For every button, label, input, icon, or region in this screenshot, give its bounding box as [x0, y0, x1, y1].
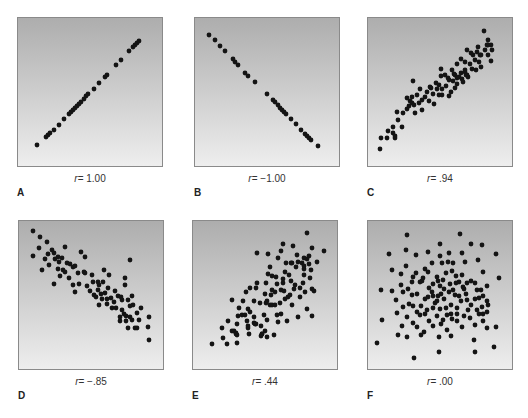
data-point: [92, 87, 97, 92]
correlation-label: r= −1.00: [194, 173, 340, 184]
data-point: [97, 283, 102, 288]
data-point: [401, 111, 406, 116]
data-point: [63, 245, 68, 250]
data-point: [476, 45, 481, 50]
data-point: [391, 125, 396, 130]
data-point: [276, 320, 281, 325]
data-point: [393, 136, 398, 141]
data-point: [405, 96, 410, 101]
data-point: [46, 252, 51, 257]
data-point: [113, 289, 118, 294]
data-point: [275, 282, 280, 287]
correlation-label: r= −.85: [18, 376, 164, 387]
data-point: [265, 335, 270, 340]
data-point: [460, 325, 465, 330]
scatter-panel-e: [192, 220, 338, 370]
data-point: [52, 251, 57, 256]
data-point: [473, 281, 478, 286]
data-point: [438, 307, 443, 312]
data-point: [269, 293, 274, 298]
data-point: [401, 290, 406, 295]
data-point: [241, 299, 246, 304]
data-point: [438, 254, 443, 259]
data-point: [302, 264, 307, 269]
data-point: [43, 257, 48, 262]
data-point: [419, 304, 424, 309]
data-point: [268, 265, 273, 270]
data-point: [295, 253, 300, 258]
data-point: [462, 287, 467, 292]
data-point: [298, 295, 303, 300]
data-point: [497, 276, 502, 281]
data-point: [412, 356, 417, 361]
data-point: [490, 48, 495, 53]
data-point: [258, 301, 263, 306]
data-point: [298, 286, 303, 291]
data-point: [266, 272, 271, 277]
data-point: [137, 318, 142, 323]
data-point: [114, 306, 119, 311]
data-point: [281, 242, 286, 247]
panel-letter-d: D: [18, 390, 25, 401]
data-point: [226, 319, 231, 324]
scatter-plot-area: [192, 220, 338, 370]
data-point: [415, 93, 420, 98]
data-point: [60, 256, 65, 261]
correlation-label: r= .44: [192, 376, 338, 387]
data-point: [405, 335, 410, 340]
data-point: [405, 315, 410, 320]
data-point: [284, 112, 289, 117]
data-point: [247, 332, 252, 337]
data-point: [452, 72, 457, 77]
data-point: [400, 324, 405, 329]
data-point: [427, 99, 432, 104]
data-point: [399, 283, 404, 288]
data-point: [437, 335, 442, 340]
data-point: [255, 281, 260, 286]
data-point: [426, 270, 431, 275]
data-point: [85, 284, 90, 289]
data-point: [77, 282, 82, 287]
data-point: [440, 87, 445, 92]
data-point: [56, 255, 61, 260]
data-point: [390, 289, 395, 294]
data-point: [40, 268, 45, 273]
r-value: = .00: [430, 376, 453, 387]
data-point: [97, 303, 102, 308]
data-point: [430, 261, 435, 266]
data-point: [302, 256, 307, 261]
data-point: [301, 281, 306, 286]
data-point: [448, 282, 453, 287]
data-point: [139, 306, 144, 311]
data-point: [481, 319, 486, 324]
data-point: [435, 299, 440, 304]
data-point: [246, 324, 251, 329]
data-point: [455, 76, 460, 81]
data-point: [243, 313, 248, 318]
data-point: [451, 288, 456, 293]
data-point: [272, 333, 277, 338]
panel-letter-c: C: [367, 187, 374, 198]
data-point: [481, 312, 486, 317]
data-point: [109, 296, 114, 301]
data-point: [252, 315, 257, 320]
data-point: [307, 254, 312, 259]
data-point: [404, 248, 409, 253]
data-point: [287, 273, 292, 278]
data-point: [45, 240, 50, 245]
data-point: [427, 319, 432, 324]
data-point: [441, 278, 446, 283]
data-point: [62, 117, 67, 122]
data-point: [308, 276, 313, 281]
data-point: [284, 261, 289, 266]
data-point: [303, 290, 308, 295]
data-point: [429, 86, 434, 91]
data-point: [444, 306, 449, 311]
data-point: [276, 256, 281, 261]
data-point: [244, 290, 249, 295]
data-point: [57, 260, 62, 265]
data-point: [437, 83, 442, 88]
data-point: [427, 286, 432, 291]
data-point: [123, 276, 128, 281]
data-point: [245, 319, 250, 324]
